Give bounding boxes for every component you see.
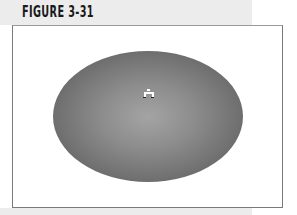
figure-label: FIGURE 3-31: [22, 3, 94, 21]
figure-footer-band: [0, 208, 252, 215]
figure-frame: [12, 25, 283, 208]
gradient-ellipse: [53, 51, 243, 182]
gradient-tool-cursor-icon: [143, 89, 155, 98]
